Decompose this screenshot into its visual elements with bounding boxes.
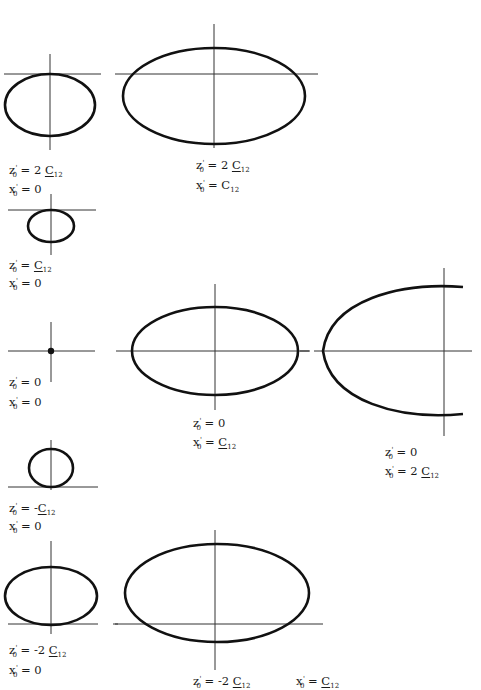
orbit-diagram: z'0 = 2 C12 x'0 = 0 z'0 = 2 C12 x'0 = C1…	[0, 0, 481, 690]
p9-z-label: z'0 = -2 C12	[193, 672, 251, 690]
p5-z-label: z'0 = 0	[193, 414, 225, 435]
p4-z-label: z'0 = 0	[9, 373, 41, 394]
p6-x-label: x'0 = 2 C12	[385, 462, 439, 483]
p9-orbit	[125, 544, 309, 642]
p1-z-label: z'0 = 2 C12	[9, 161, 63, 182]
p4-point	[48, 348, 54, 354]
p9-x-label: x'0 = C12	[296, 672, 339, 690]
p2-z-label: z'0 = 2 C12	[196, 156, 250, 177]
p8-z-label: z'0 = -2 C12	[9, 641, 67, 662]
p6-z-label: z'0 = 0	[385, 443, 417, 464]
p3-x-label: x'0 = 0	[9, 274, 42, 295]
p1-x-label: x'0 = 0	[9, 180, 42, 201]
p7-x-label: x'0 = 0	[9, 517, 42, 538]
p2-x-label: x'0 = C12	[196, 176, 239, 197]
p8-x-label: x'0 = 0	[9, 661, 42, 682]
p4-x-label: x'0 = 0	[9, 393, 42, 414]
diagram-canvas	[0, 0, 481, 690]
p5-x-label: x'0 = C12	[193, 433, 236, 454]
